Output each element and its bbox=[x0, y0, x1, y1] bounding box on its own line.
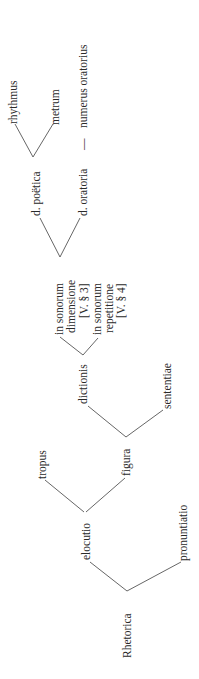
node-dimensione-line3: [V. § 3] bbox=[78, 283, 90, 318]
node-tropus: tropus bbox=[36, 450, 48, 479]
rhetorica-tree-diagram: Rhetorica elocutio pronuntiatio tropus f… bbox=[0, 0, 199, 679]
edge-dimensione-poetica bbox=[40, 218, 60, 257]
edge-figura-sententiae bbox=[126, 410, 163, 437]
edge-dimensione-oratoria bbox=[60, 218, 80, 257]
tree-edges bbox=[0, 0, 199, 679]
node-repetitione-line3: [V. § 4] bbox=[115, 283, 127, 318]
edge-dictionis-repetitione bbox=[83, 338, 98, 355]
edge-rhetorica-elocutio bbox=[90, 562, 127, 591]
node-sententiae: sententiae bbox=[161, 363, 173, 409]
node-repetitione-line2: repetitione bbox=[103, 284, 115, 333]
node-elocutio: elocutio bbox=[80, 523, 92, 560]
node-dictionis: dictionis bbox=[77, 364, 89, 404]
node-rhetorica: Rhetorica bbox=[121, 613, 133, 658]
node-figura: figura bbox=[120, 449, 132, 476]
edge-rhetorica-pronuntiatio bbox=[127, 562, 181, 591]
edge-dictionis-dimensione bbox=[60, 337, 83, 355]
node-pronuntiatio: pronuntiatio bbox=[177, 505, 189, 561]
node-repetitione-line1: in sonorum bbox=[91, 283, 103, 335]
edge-elocutio-tropus bbox=[45, 480, 84, 512]
node-dimensione-line1: in sonorum bbox=[53, 283, 65, 335]
node-poetica: d. poëtica bbox=[30, 171, 42, 216]
node-rhythmus: rhythmus bbox=[7, 81, 19, 124]
node-metrum: metrum bbox=[49, 89, 61, 125]
node-numerus-oratorius: numerus oratorius bbox=[77, 45, 89, 128]
node-dimensione-line2: dimensione bbox=[65, 280, 77, 333]
node-oratoria: d. oratoria bbox=[77, 169, 89, 216]
edge-poetica-rhythmus bbox=[15, 124, 33, 157]
edge-elocutio-figura bbox=[86, 478, 125, 512]
edge-poetica-metrum bbox=[33, 124, 53, 157]
node-dash: — bbox=[77, 139, 89, 151]
edge-figura-dictionis bbox=[88, 406, 126, 437]
